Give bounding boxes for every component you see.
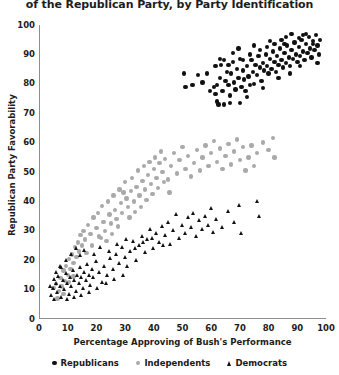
data-point-rep	[219, 63, 223, 67]
legend-entry: Independents	[136, 358, 211, 368]
data-point-rep	[292, 40, 296, 44]
data-point-rep	[218, 76, 222, 80]
data-point-rep	[281, 65, 285, 69]
data-point-ind	[209, 151, 213, 155]
data-point-ind	[124, 196, 128, 200]
data-point-rep	[239, 85, 243, 89]
data-point-ind	[81, 229, 85, 233]
data-point-rep	[315, 61, 319, 65]
data-point-ind	[223, 154, 227, 158]
data-point-rep	[205, 71, 209, 75]
data-point-rep	[241, 58, 245, 62]
data-point-dem	[94, 259, 98, 263]
data-point-dem	[74, 289, 78, 293]
data-point-rep	[231, 51, 235, 55]
data-point-dem	[114, 252, 118, 256]
data-point-dem	[90, 267, 94, 271]
x-tick-label: 100	[311, 324, 339, 333]
data-point-ind	[140, 179, 144, 183]
data-point-ind	[252, 164, 256, 168]
data-point-ind	[232, 149, 236, 153]
data-point-ind	[203, 143, 207, 147]
data-point-dem	[200, 227, 204, 231]
data-point-ind	[172, 151, 176, 155]
data-point-ind	[106, 199, 110, 203]
data-point-dem	[84, 278, 88, 282]
data-point-dem	[121, 273, 125, 277]
data-point-dem	[163, 233, 167, 237]
data-point-ind	[163, 157, 167, 161]
data-point-dem	[56, 274, 60, 278]
data-point-ind	[271, 136, 275, 140]
y-tick-label: 90	[9, 50, 35, 59]
data-point-ind	[229, 162, 233, 166]
y-tick-label: 80	[9, 79, 35, 88]
data-point-ind	[189, 174, 193, 178]
data-point-ind	[137, 193, 141, 197]
data-point-dem	[168, 242, 172, 246]
data-point-dem	[91, 275, 95, 279]
data-point-ind	[152, 167, 156, 171]
data-point-dem	[65, 297, 69, 301]
data-point-rep	[246, 74, 250, 78]
data-point-rep	[289, 48, 293, 52]
data-point-rep	[200, 80, 204, 84]
data-point-ind	[153, 155, 157, 159]
data-point-dem	[54, 270, 58, 274]
legend-label: Democrats	[235, 358, 287, 368]
data-point-dem	[133, 246, 137, 250]
data-point-dem	[92, 252, 96, 256]
data-point-rep	[216, 102, 220, 106]
data-point-ind	[186, 154, 190, 158]
data-point-rep	[252, 43, 256, 47]
data-point-dem	[160, 224, 164, 228]
data-point-ind	[192, 161, 196, 165]
data-point-dem	[166, 220, 170, 224]
data-point-ind	[206, 164, 210, 168]
data-point-ind	[198, 168, 202, 172]
data-point-rep	[215, 83, 219, 87]
data-point-ind	[107, 212, 111, 216]
data-point-dem	[211, 230, 215, 234]
chart-legend: RepublicansIndependentsDemocrats	[0, 358, 339, 368]
y-tick-label: 60	[9, 138, 35, 147]
data-point-dem	[239, 231, 243, 235]
legend-triangle-icon	[227, 361, 231, 366]
x-tick-label: 70	[225, 324, 255, 333]
data-point-rep	[220, 89, 224, 93]
data-point-dem	[87, 290, 91, 294]
data-point-rep	[255, 73, 259, 77]
x-tick-label: 0	[24, 324, 54, 333]
data-point-rep	[288, 71, 292, 75]
data-point-rep	[248, 52, 252, 56]
data-point-dem	[77, 281, 81, 285]
y-tick-label: 0	[9, 315, 35, 324]
data-point-dem	[55, 290, 59, 294]
data-point-ind	[83, 237, 87, 241]
data-point-ind	[129, 189, 133, 193]
data-point-rep	[245, 95, 249, 99]
data-point-dem	[174, 212, 178, 216]
y-tick-label: 50	[9, 168, 35, 177]
data-point-dem	[64, 271, 68, 275]
data-point-dem	[141, 240, 145, 244]
data-point-dem	[171, 228, 175, 232]
y-tick-label: 40	[9, 197, 35, 206]
data-point-ind	[133, 210, 137, 214]
data-point-dem	[191, 211, 195, 215]
data-point-ind	[103, 229, 107, 233]
data-point-ind	[241, 145, 245, 149]
data-point-rep	[266, 71, 270, 75]
data-point-rep	[309, 55, 313, 59]
data-point-dem	[131, 239, 135, 243]
data-point-ind	[134, 185, 138, 189]
data-point-ind	[169, 164, 173, 168]
data-point-rep	[236, 76, 240, 80]
data-point-dem	[49, 293, 53, 297]
data-point-ind	[215, 160, 219, 164]
data-point-ind	[266, 148, 270, 152]
data-point-rep	[315, 43, 319, 47]
y-tick-label: 70	[9, 109, 35, 118]
data-point-rep	[213, 64, 217, 68]
x-tick-label: 50	[168, 324, 198, 333]
